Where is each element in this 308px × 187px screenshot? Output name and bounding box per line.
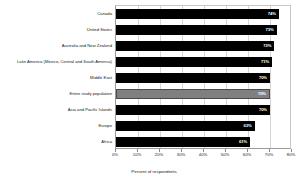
bar-row: 70% <box>116 86 290 102</box>
x-tick-label: 40% <box>191 153 215 157</box>
category-label: Asia and Pacific Islands <box>4 107 112 112</box>
x-tick-label: 30% <box>169 153 193 157</box>
plot-area: 74%73%72%71%70%70%70%63%61% <box>115 5 291 149</box>
bar-value-label: 61% <box>239 140 247 144</box>
category-label: Entire study population <box>4 91 112 96</box>
bar-row: 73% <box>116 22 290 38</box>
x-tick-label: 50% <box>213 153 237 157</box>
x-tick-label: 70% <box>257 153 281 157</box>
bar-value-label: 71% <box>261 60 269 64</box>
bar: 61% <box>116 137 250 147</box>
category-label: Canada <box>4 11 112 16</box>
x-tick-label: 60% <box>235 153 259 157</box>
bar-value-label: 70% <box>259 108 267 112</box>
category-label: Middle East <box>4 75 112 80</box>
bar: 71% <box>116 57 272 67</box>
category-label: Europe <box>4 123 112 128</box>
bar-row: 70% <box>116 102 290 118</box>
bar-value-label: 70% <box>259 76 267 80</box>
bar: 70% <box>116 105 270 115</box>
bar: 73% <box>116 25 277 35</box>
bar: 72% <box>116 41 274 51</box>
x-tick-label: 10% <box>125 153 149 157</box>
bar: 70% <box>116 73 270 83</box>
x-axis-title: Percent of respondents <box>0 170 308 174</box>
bar: 74% <box>116 9 279 19</box>
bar: 63% <box>116 121 255 131</box>
bar-value-label: 63% <box>244 124 252 128</box>
category-label: United States <box>4 27 112 32</box>
bar-row: 74% <box>116 6 290 22</box>
category-label: Africa <box>4 139 112 144</box>
bar-row: 72% <box>116 38 290 54</box>
bar-row: 71% <box>116 54 290 70</box>
bar-value-label: 70% <box>258 92 266 96</box>
x-tick-label: 0% <box>103 153 127 157</box>
bar-value-label: 74% <box>268 12 276 16</box>
bar-row: 70% <box>116 70 290 86</box>
bar: 70% <box>116 89 270 99</box>
category-label: Australia and New Zealand <box>4 43 112 48</box>
category-label: Latin America (Mexico, Central and South… <box>4 59 112 64</box>
bar-row: 63% <box>116 118 290 134</box>
x-tick-label: 80% <box>279 153 303 157</box>
bar-value-label: 72% <box>263 44 271 48</box>
bar-value-label: 73% <box>266 28 274 32</box>
bar-row: 61% <box>116 134 290 150</box>
bar-chart: 74%73%72%71%70%70%70%63%61% CanadaUnited… <box>0 0 308 187</box>
x-tick-label: 20% <box>147 153 171 157</box>
